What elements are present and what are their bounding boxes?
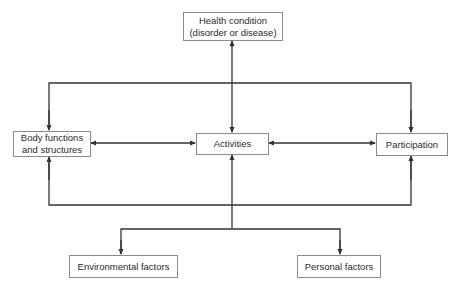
body-functions-box: Body functions and structures bbox=[13, 131, 91, 157]
participation-box: Participation bbox=[376, 133, 448, 156]
health-condition-label: Health condition (disorder or disease) bbox=[189, 15, 276, 39]
personal-factors-label: Personal factors bbox=[305, 261, 374, 273]
participation-label: Participation bbox=[386, 139, 438, 151]
health-condition-box: Health condition (disorder or disease) bbox=[183, 12, 283, 41]
icf-diagram: Health condition (disorder or disease) B… bbox=[0, 0, 458, 291]
environmental-factors-box: Environmental factors bbox=[69, 255, 178, 278]
personal-factors-box: Personal factors bbox=[297, 255, 381, 278]
activities-box: Activities bbox=[196, 133, 269, 155]
body-functions-label: Body functions and structures bbox=[21, 132, 83, 156]
environmental-factors-label: Environmental factors bbox=[78, 261, 170, 273]
activities-label: Activities bbox=[214, 138, 251, 150]
